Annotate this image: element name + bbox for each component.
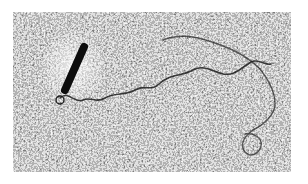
micrograph-image bbox=[13, 12, 291, 172]
micrograph-svg bbox=[13, 12, 291, 172]
